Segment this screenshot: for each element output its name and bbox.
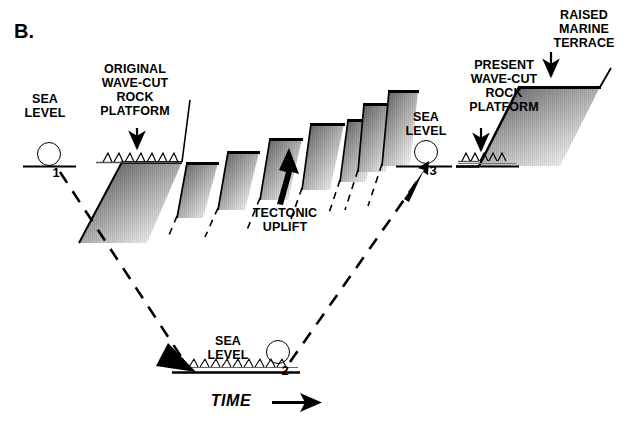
stage-marker-1-text: 1 [53, 165, 60, 180]
stage-marker-3-text: 3 [430, 163, 437, 178]
terrace-step-1-texture [177, 163, 218, 218]
tectonic-uplift-label: TECTONIC UPLIFT [225, 206, 345, 234]
stage-marker-1: 1 [37, 142, 61, 166]
stage-marker-2: 2 [266, 340, 290, 364]
raised-terrace-back-edge [600, 68, 611, 87]
sea-level-label-2: SEA LEVEL [196, 334, 260, 362]
terrace-step-4-texture [302, 124, 344, 190]
original-rock-block-texture [79, 162, 182, 243]
stage-marker-2-text: 2 [282, 363, 289, 378]
raised-marine-terrace-label: RAISED MARINE TERRACE [536, 8, 632, 50]
sea-level-label-3: SEA LEVEL [396, 110, 456, 138]
terrace-step-2-texture [218, 152, 259, 210]
original-platform-label: ORIGINAL WAVE-CUT ROCK PLATFORM [70, 62, 200, 118]
panel-letter: B. [14, 20, 34, 42]
stage-marker-3: 3 [414, 140, 438, 164]
original-platform-waves [103, 153, 178, 162]
figure-panel-b: B. SEA LEVEL ORIGINAL WAVE-CUT ROCK PLAT… [0, 0, 635, 426]
present-platform-label: PRESENT WAVE-CUT ROCK PLATFORM [444, 58, 564, 114]
time-axis-label: TIME [196, 392, 266, 410]
